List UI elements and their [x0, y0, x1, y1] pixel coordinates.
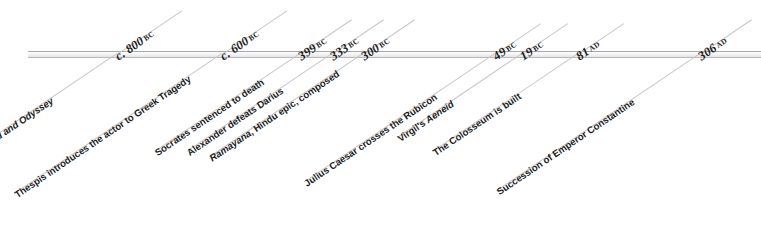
event-date-label: 399BC — [295, 34, 330, 64]
event-label-text: Thespis introduces the actor to Greek Tr… — [12, 73, 192, 200]
event-date-label: 300BC — [358, 34, 393, 64]
event-date-label: 306AD — [695, 33, 730, 63]
event-description-label: Julius Caesar crosses the Rubicon — [302, 91, 439, 188]
event-description-label: Succession of Emperor Constantine — [495, 96, 637, 197]
event-date-value: c. 600 — [217, 34, 251, 63]
timeline-diagram: c. 800BCHomer's Iliad and Odysseyc. 600B… — [0, 0, 761, 247]
event-label-title: Iliad and Odyssey — [0, 95, 55, 149]
event-label-text: Julius Caesar crosses the Rubicon — [302, 91, 439, 188]
axis-rule-bottom — [28, 57, 761, 58]
event-description-label: Homer's Iliad and Odyssey — [0, 95, 55, 172]
event-description-label: Ramayana, Hindu epic, composed — [207, 68, 341, 163]
event-leader-line — [0, 53, 117, 166]
event-description-label: Thespis introduces the actor to Greek Tr… — [12, 73, 192, 200]
event-label-text: Succession of Emperor Constantine — [495, 96, 637, 197]
event-date-label: c. 600BC — [217, 27, 262, 64]
event-date-label: 333BC — [327, 34, 362, 64]
event-date-label: c. 800BC — [112, 27, 157, 64]
event-date-era: AD — [587, 40, 602, 54]
event-date-value: c. 800 — [112, 34, 146, 63]
